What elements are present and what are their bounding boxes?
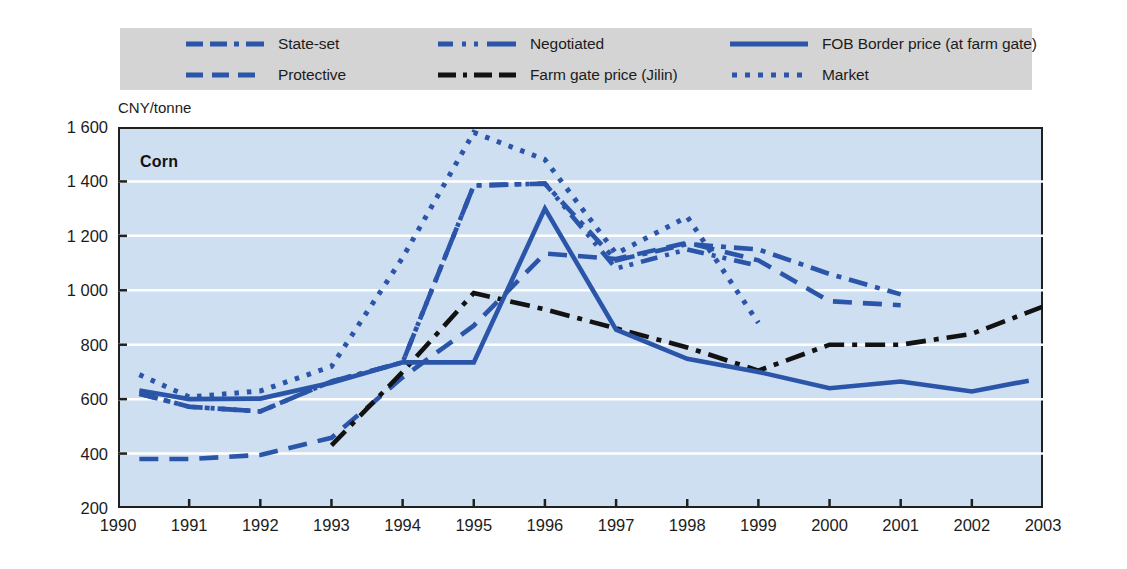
y-axis-tick-label: 200 xyxy=(0,499,108,518)
x-axis-ticks xyxy=(189,499,972,508)
series-line-protective xyxy=(139,243,900,459)
x-axis-tick-label: 2000 xyxy=(811,516,848,535)
x-axis-tick-label: 1996 xyxy=(527,516,564,535)
chart-legend: State-set Negotiated FOB Border price (a… xyxy=(120,28,1032,90)
x-axis-tick-label: 2001 xyxy=(882,516,919,535)
legend-label: Farm gate price (Jilin) xyxy=(530,66,678,84)
legend-label: Market xyxy=(822,66,869,84)
x-axis-tick-label: 1993 xyxy=(313,516,350,535)
y-axis-tick-label: 400 xyxy=(0,444,108,463)
plot-title: Corn xyxy=(140,153,178,171)
x-axis-tick-label: 1994 xyxy=(384,516,421,535)
legend-label: FOB Border price (at farm gate) xyxy=(822,35,1037,53)
y-axis-tick-label: 1 200 xyxy=(0,226,108,245)
long-dash-line-icon xyxy=(186,68,264,82)
x-axis-tick-label: 1995 xyxy=(455,516,492,535)
x-axis-tick-label: 2003 xyxy=(1025,516,1062,535)
x-axis-tick-label: 1997 xyxy=(598,516,635,535)
plot-area: Corn xyxy=(118,127,1043,508)
dash-dot-black-line-icon xyxy=(438,68,516,82)
legend-label: State-set xyxy=(278,35,339,53)
legend-item-fob-border-price: FOB Border price (at farm gate) xyxy=(720,28,1032,59)
dash-dot-line-icon xyxy=(186,37,264,51)
legend-label: Negotiated xyxy=(530,35,604,53)
x-axis-tick-label: 1991 xyxy=(171,516,208,535)
x-axis-tick-labels: 1990199119921993199419951996199719981999… xyxy=(118,516,1043,540)
dash-dot-dot-line-icon xyxy=(438,37,516,51)
series-line-negotiated xyxy=(139,184,758,412)
x-axis-tick-label: 1992 xyxy=(242,516,279,535)
solid-line-icon xyxy=(730,37,808,51)
y-axis-tick-label: 1 600 xyxy=(0,118,108,137)
y-axis-tick-label: 600 xyxy=(0,390,108,409)
y-axis-tick-labels: 1 6001 4001 2001 000800600400200 xyxy=(0,127,108,508)
dotted-line-icon xyxy=(730,68,808,82)
legend-item-state-set: State-set xyxy=(120,28,420,59)
legend-item-protective: Protective xyxy=(120,59,420,90)
x-axis-tick-label: 1999 xyxy=(740,516,777,535)
plot-lines xyxy=(118,127,1043,508)
series-line-market xyxy=(139,132,758,397)
y-axis-unit-label: CNY/tonne xyxy=(118,99,191,116)
legend-item-market: Market xyxy=(720,59,1032,90)
x-axis-tick-label: 2002 xyxy=(953,516,990,535)
chart-figure: State-set Negotiated FOB Border price (a… xyxy=(0,0,1127,569)
x-axis-tick-label: 1998 xyxy=(669,516,706,535)
y-axis-tick-label: 1 000 xyxy=(0,281,108,300)
series-line-farm-gate-price-jilin xyxy=(331,293,1043,445)
legend-label: Protective xyxy=(278,66,346,84)
legend-item-negotiated: Negotiated xyxy=(420,28,720,59)
legend-item-farm-gate-price-jilin: Farm gate price (Jilin) xyxy=(420,59,720,90)
y-axis-tick-label: 800 xyxy=(0,335,108,354)
y-axis-tick-label: 1 400 xyxy=(0,172,108,191)
x-axis-tick-label: 1990 xyxy=(100,516,137,535)
y-axis-ticks xyxy=(118,181,127,453)
